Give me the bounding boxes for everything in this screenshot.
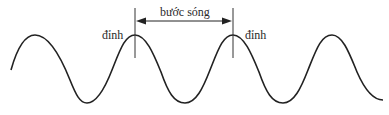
arrowhead-left-icon <box>136 18 146 25</box>
sine-wave <box>11 35 383 103</box>
arrowhead-right-icon <box>222 18 232 25</box>
wavelength-diagram: bước sóng đỉnh đỉnh <box>0 0 389 115</box>
crest-label-right: đỉnh <box>245 29 266 41</box>
crest-label-left: đỉnh <box>102 29 123 41</box>
wavelength-label: bước sóng <box>160 6 210 18</box>
